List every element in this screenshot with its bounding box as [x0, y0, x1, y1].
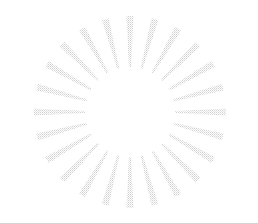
- image-canvas: [0, 0, 258, 223]
- starburst-graphic: [0, 0, 258, 223]
